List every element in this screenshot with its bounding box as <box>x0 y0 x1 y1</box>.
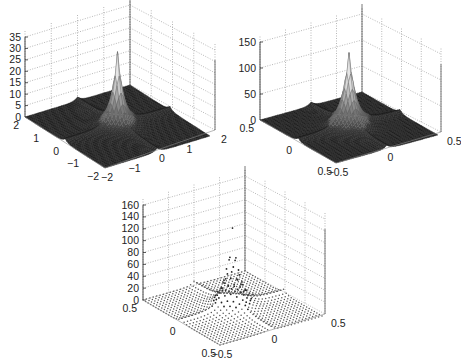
data-point <box>176 316 178 318</box>
data-point <box>187 293 189 295</box>
data-point <box>220 277 222 279</box>
data-point <box>178 302 180 304</box>
data-point <box>234 290 236 292</box>
data-point <box>235 257 237 259</box>
data-point <box>229 305 231 307</box>
data-point <box>206 318 208 320</box>
y-tick-label: 2 <box>13 119 19 131</box>
data-point <box>177 296 179 298</box>
data-point <box>196 312 198 314</box>
data-point <box>163 293 165 295</box>
data-point <box>264 310 266 312</box>
data-point <box>218 292 220 294</box>
data-point <box>171 313 173 315</box>
data-point <box>210 296 212 298</box>
data-point <box>242 278 244 280</box>
data-point <box>244 335 246 337</box>
data-point <box>273 291 275 293</box>
data-point <box>239 322 241 324</box>
data-point <box>208 322 210 324</box>
z-tick-label: 160 <box>121 199 139 211</box>
x-tick-label: 1 <box>187 143 193 155</box>
data-point <box>170 298 172 300</box>
data-point <box>286 309 288 311</box>
data-point <box>221 292 223 294</box>
data-point <box>290 297 292 299</box>
data-point <box>251 286 253 288</box>
data-point <box>284 296 286 298</box>
data-point <box>211 305 213 307</box>
data-point <box>169 312 171 314</box>
data-point <box>267 329 269 331</box>
data-point <box>205 324 207 326</box>
data-point <box>229 288 231 290</box>
data-point <box>280 300 282 302</box>
data-point <box>242 331 244 333</box>
data-point <box>268 307 270 309</box>
data-point <box>227 331 229 333</box>
data-point <box>285 312 287 314</box>
data-point <box>219 335 221 337</box>
data-point <box>250 280 252 282</box>
data-point <box>242 299 244 301</box>
data-point <box>240 274 242 276</box>
data-point <box>234 329 236 331</box>
data-point <box>206 298 208 300</box>
data-point <box>249 276 251 278</box>
data-point <box>200 290 202 292</box>
data-point <box>236 286 238 288</box>
data-point <box>190 294 192 296</box>
data-point <box>220 333 222 335</box>
data-point <box>284 317 286 319</box>
data-point <box>232 281 234 283</box>
data-point <box>225 282 227 284</box>
data-point <box>230 292 232 294</box>
data-point <box>195 287 197 289</box>
data-point <box>292 319 294 321</box>
data-point <box>190 303 192 305</box>
data-point <box>272 324 274 326</box>
data-point <box>165 295 167 297</box>
data-point <box>255 329 257 331</box>
data-point <box>173 291 175 293</box>
data-point <box>206 328 208 330</box>
data-point <box>251 333 253 335</box>
data-point <box>285 305 287 307</box>
data-point <box>285 293 287 295</box>
data-point <box>222 337 224 339</box>
data-point <box>239 292 241 294</box>
data-point <box>303 314 305 316</box>
data-point <box>281 306 283 308</box>
data-point <box>217 306 219 308</box>
data-point <box>222 317 224 319</box>
data-point <box>255 283 257 285</box>
data-point <box>267 284 269 286</box>
data-point <box>241 308 243 310</box>
data-point <box>186 286 188 288</box>
data-point <box>208 293 210 295</box>
grid-line-z <box>25 5 215 50</box>
data-point <box>194 299 196 301</box>
data-point <box>218 297 220 299</box>
data-point <box>277 319 279 321</box>
data-point <box>307 313 309 315</box>
data-point <box>288 295 290 297</box>
data-point <box>207 314 209 316</box>
data-point <box>183 287 185 289</box>
data-point <box>267 303 269 305</box>
data-point <box>225 278 227 280</box>
data-point <box>253 281 255 283</box>
data-point <box>266 322 268 324</box>
data-point <box>291 315 293 317</box>
data-point <box>188 316 190 318</box>
data-point <box>222 289 224 291</box>
data-point <box>274 320 276 322</box>
data-point <box>245 285 247 287</box>
data-point <box>292 310 294 312</box>
data-point <box>255 291 257 293</box>
grid-line-z <box>143 212 325 255</box>
data-point <box>211 333 213 335</box>
data-point <box>279 314 281 316</box>
z-tick-label: 5 <box>15 99 21 111</box>
data-point <box>275 295 277 297</box>
